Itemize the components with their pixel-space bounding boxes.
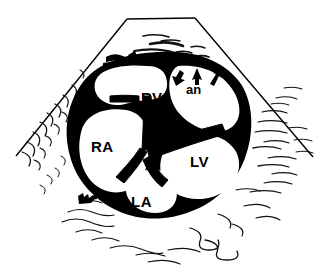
- echo-diagram-figure: RV RA LV LA an: [0, 0, 330, 280]
- label-an-aneurysm: an: [186, 82, 201, 97]
- sector-apex-edge: [127, 18, 195, 19]
- label-la: LA: [131, 193, 152, 210]
- label-ra: RA: [91, 138, 114, 155]
- label-rv: RV: [141, 89, 163, 106]
- echo-diagram-canvas: RV RA LV LA an: [0, 0, 330, 280]
- rv-free-wall-band: [110, 95, 139, 102]
- label-lv: LV: [190, 153, 209, 170]
- speckle-texture-right: [250, 87, 313, 193]
